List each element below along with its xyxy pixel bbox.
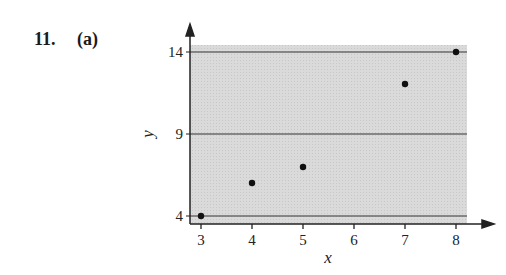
y-tick-label: 4 (176, 208, 184, 224)
data-point (198, 213, 204, 219)
x-tick-label: 8 (452, 232, 460, 248)
data-point (300, 164, 306, 170)
data-point (402, 81, 408, 87)
data-point (453, 49, 459, 55)
y-tick-label: 9 (176, 126, 184, 142)
x-tick-label: 5 (299, 232, 307, 248)
x-tick-label: 3 (197, 232, 205, 248)
y-axis-label: y (138, 130, 157, 140)
x-tick-label: 7 (401, 232, 409, 248)
y-tick-label: 14 (168, 44, 184, 60)
x-tick-label: 4 (248, 232, 256, 248)
scatter-plot: 3 4 5 6 7 8 4 9 14 x y (0, 0, 506, 275)
data-point (249, 180, 255, 186)
x-tick-label: 6 (350, 232, 358, 248)
x-axis-label: x (323, 248, 332, 267)
